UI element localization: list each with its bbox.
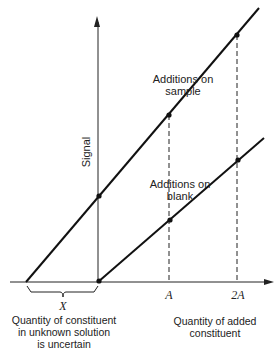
blank-point-a — [167, 217, 172, 222]
brace-caption: Quantity of constituent in unknown solut… — [0, 314, 128, 350]
sample-point-a — [166, 112, 171, 117]
blank-point-0 — [96, 278, 101, 283]
y-axis-label: Signal — [80, 132, 92, 172]
blank-line-label-2: blank — [135, 190, 225, 202]
sample-line-label: Additions on sample — [138, 73, 228, 97]
brace-caption-3: is uncertain — [0, 338, 128, 350]
brace-caption-1: Quantity of constituent — [0, 314, 128, 326]
x-tick-2a: 2A — [225, 289, 251, 301]
x-axis-label-2: constituent — [165, 327, 265, 339]
blank-point-2a — [235, 157, 240, 162]
sample-line-label-2: sample — [138, 85, 228, 97]
brace-icon — [27, 286, 98, 297]
x-axis-arrow-icon — [264, 279, 274, 285]
brace-caption-2: in unknown solution — [0, 326, 128, 338]
x-axis-label-1: Quantity of added — [165, 315, 265, 327]
sample-line-label-1: Additions on — [138, 73, 228, 85]
sample-additions-line — [26, 8, 259, 282]
sample-point-0 — [96, 193, 101, 198]
blank-line-label: Additions on blank — [135, 178, 225, 202]
sample-point-2a — [234, 32, 239, 37]
brace-symbol: X — [53, 300, 73, 312]
x-axis-label: Quantity of added constituent — [165, 315, 265, 339]
blank-line-label-1: Additions on — [135, 178, 225, 190]
y-axis-arrow-icon — [94, 16, 100, 27]
x-tick-a: A — [159, 289, 179, 301]
